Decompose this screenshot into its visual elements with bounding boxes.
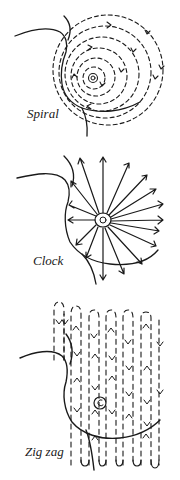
zigzag-strips [54,302,159,465]
clock-label: Clock [33,253,63,269]
spiral-pattern-illustration [0,0,180,150]
spiral-label: Spiral [27,106,59,122]
zigzag-label: Zig zag [25,444,64,460]
breast-contour [17,174,158,265]
clock-pattern-illustration [0,150,180,290]
spiral-panel: Spiral [0,0,180,150]
breast-contour [15,29,140,111]
zigzag-panel: Zig zag [0,290,180,480]
breast-contour [20,352,160,439]
nipple [89,74,98,83]
nipple [94,397,106,409]
clock-panel: Clock [0,150,180,290]
clock-arrows [68,157,163,280]
